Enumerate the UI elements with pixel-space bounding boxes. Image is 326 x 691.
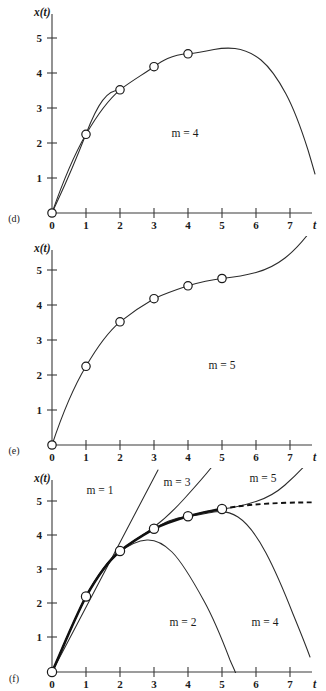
y-axis-title-e: x(t) bbox=[33, 242, 51, 255]
y-tick-label-4-e: 4 bbox=[37, 299, 43, 311]
panel-e: 1 2 3 4 5 0 1 2 3 4 5 6 7 x(t) t bbox=[0, 232, 326, 464]
curve-m1-f bbox=[52, 470, 158, 672]
data-point-marker bbox=[116, 86, 124, 94]
data-point-marker bbox=[149, 524, 158, 533]
x-tick-label-4-f: 4 bbox=[185, 678, 191, 690]
panel-letter-e: (e) bbox=[8, 445, 19, 457]
data-point-marker bbox=[81, 592, 90, 601]
y-tick-label-3-f: 3 bbox=[37, 563, 43, 575]
y-tick-label-5-d: 5 bbox=[37, 32, 43, 44]
data-point-marker bbox=[47, 667, 56, 676]
panel-f: 1 2 3 4 5 0 1 2 3 4 5 6 7 x(t) t bbox=[0, 464, 326, 691]
data-point-marker bbox=[150, 62, 158, 70]
panel-e-plot: 1 2 3 4 5 0 1 2 3 4 5 6 7 x(t) t bbox=[0, 232, 326, 464]
data-point-marker bbox=[218, 274, 226, 282]
x-tick-label-0-d: 0 bbox=[49, 219, 55, 231]
panel-letter-f: (f) bbox=[9, 673, 19, 685]
annotation-m-equals-2-f: m = 2 bbox=[170, 616, 197, 628]
x-tick-label-3-e: 3 bbox=[151, 451, 157, 463]
data-point-marker bbox=[183, 512, 192, 521]
curve-m5-e bbox=[52, 233, 309, 445]
x-tick-label-5-d: 5 bbox=[219, 219, 225, 231]
panel-letter-d: (d) bbox=[8, 213, 20, 225]
figure-container: 1 2 3 4 5 0 1 2 3 4 5 6 7 x(t) t bbox=[0, 0, 326, 691]
x-tick-label-7-f: 7 bbox=[287, 678, 293, 690]
data-point-marker bbox=[184, 50, 192, 58]
x-axis-title-d: t bbox=[313, 219, 317, 231]
x-axis-title-f: t bbox=[313, 678, 317, 690]
y-tick-label-5-e: 5 bbox=[37, 264, 43, 276]
annotation-m-equals-1-f: m = 1 bbox=[87, 484, 114, 496]
data-point-marker bbox=[116, 318, 124, 326]
data-point-marker bbox=[150, 295, 158, 303]
curve-m4-d bbox=[52, 90, 120, 213]
y-axis-title-d: x(t) bbox=[33, 6, 51, 19]
panel-d-plot: 1 2 3 4 5 0 1 2 3 4 5 6 7 x(t) t bbox=[0, 0, 326, 232]
x-tick-label-0-f: 0 bbox=[49, 678, 55, 690]
y-tick-label-5-f: 5 bbox=[37, 495, 43, 507]
x-tick-label-5-f: 5 bbox=[219, 678, 225, 690]
x-tick-label-2-d: 2 bbox=[117, 219, 123, 231]
x-tick-label-2-e: 2 bbox=[117, 451, 123, 463]
panel-f-plot: 1 2 3 4 5 0 1 2 3 4 5 6 7 x(t) t bbox=[0, 464, 326, 691]
annotation-m-equals-5-f: m = 5 bbox=[250, 472, 277, 484]
data-point-marker bbox=[82, 362, 90, 370]
y-axis-title-f: x(t) bbox=[33, 472, 51, 485]
x-tick-label-2-f: 2 bbox=[117, 678, 123, 690]
y-tick-label-2-f: 2 bbox=[37, 597, 43, 609]
x-tick-label-3-d: 3 bbox=[151, 219, 157, 231]
x-tick-label-4-d: 4 bbox=[185, 219, 191, 231]
x-tick-label-3-f: 3 bbox=[151, 678, 157, 690]
x-tick-label-1-d: 1 bbox=[83, 219, 89, 231]
data-point-marker bbox=[82, 130, 90, 138]
x-tick-label-6-d: 6 bbox=[253, 219, 259, 231]
annotation-m-equals-3-f: m = 3 bbox=[164, 476, 191, 488]
y-tick-label-3-d: 3 bbox=[37, 102, 43, 114]
x-tick-label-7-d: 7 bbox=[287, 219, 293, 231]
annotation-m-equals-5: m = 5 bbox=[209, 359, 236, 371]
y-tick-label-2-e: 2 bbox=[37, 369, 43, 381]
data-point-marker bbox=[48, 441, 56, 449]
curve-m4-f bbox=[52, 512, 310, 672]
curve-bold-interpolant-f bbox=[52, 509, 222, 672]
y-tick-label-4-d: 4 bbox=[37, 67, 43, 79]
curve-dashed-asymptote-f bbox=[222, 502, 312, 509]
y-tick-label-1-f: 1 bbox=[37, 631, 43, 643]
x-tick-label-1-e: 1 bbox=[83, 451, 89, 463]
y-tick-label-2-d: 2 bbox=[37, 137, 43, 149]
x-tick-label-0-e: 0 bbox=[49, 451, 55, 463]
y-tick-label-4-f: 4 bbox=[37, 529, 43, 541]
x-tick-label-7-e: 7 bbox=[287, 451, 293, 463]
x-tick-label-4-e: 4 bbox=[185, 451, 191, 463]
y-tick-label-3-e: 3 bbox=[37, 334, 43, 346]
data-point-marker bbox=[48, 209, 56, 217]
y-tick-label-1-d: 1 bbox=[37, 172, 43, 184]
panel-d: 1 2 3 4 5 0 1 2 3 4 5 6 7 x(t) t bbox=[0, 0, 326, 232]
annotation-m-equals-4: m = 4 bbox=[172, 127, 199, 139]
x-tick-label-5-e: 5 bbox=[219, 451, 225, 463]
x-tick-label-6-e: 6 bbox=[253, 451, 259, 463]
x-tick-label-6-f: 6 bbox=[253, 678, 259, 690]
annotation-m-equals-4-f: m = 4 bbox=[252, 616, 279, 628]
x-tick-label-1-f: 1 bbox=[83, 678, 89, 690]
y-tick-label-1-e: 1 bbox=[37, 404, 43, 416]
data-point-marker bbox=[115, 546, 124, 555]
x-axis-title-e: t bbox=[313, 451, 317, 463]
data-point-marker bbox=[184, 282, 192, 290]
data-point-marker bbox=[217, 504, 226, 513]
curve-m3-f bbox=[52, 468, 211, 672]
